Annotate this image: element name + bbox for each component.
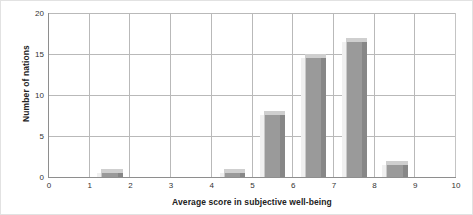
bar-face bbox=[386, 165, 402, 177]
y-axis-tick-label: 10 bbox=[35, 91, 44, 100]
bar-top bbox=[346, 38, 367, 42]
x-axis-tick-label: 1 bbox=[87, 181, 91, 190]
gridline-horizontal bbox=[49, 54, 456, 55]
gridline-vertical bbox=[333, 13, 334, 177]
bar-top bbox=[224, 169, 245, 173]
histogram-bar bbox=[301, 54, 326, 177]
bar-top bbox=[101, 169, 122, 173]
chart-figure: Number of nations Average score in subje… bbox=[0, 0, 473, 215]
histogram-bar bbox=[260, 111, 285, 177]
bar-face bbox=[305, 58, 321, 177]
gridline-vertical bbox=[292, 13, 293, 177]
y-axis-tick-label: 0 bbox=[40, 173, 44, 182]
gridline-vertical bbox=[129, 13, 130, 177]
gridline-horizontal bbox=[49, 13, 456, 14]
histogram-bar bbox=[382, 161, 407, 177]
x-axis-tick-label: 2 bbox=[128, 181, 132, 190]
histogram-bar bbox=[97, 169, 122, 177]
histogram-bar bbox=[342, 38, 367, 177]
y-axis-tick-label: 5 bbox=[40, 132, 44, 141]
bar-side bbox=[403, 165, 408, 177]
x-axis-tick-label: 3 bbox=[169, 181, 173, 190]
bar-top bbox=[305, 54, 326, 58]
bar-face bbox=[264, 115, 280, 177]
bar-face bbox=[224, 173, 240, 177]
bar-side bbox=[240, 173, 245, 177]
x-axis-tick-label: 10 bbox=[452, 181, 461, 190]
x-axis-tick-label: 4 bbox=[210, 181, 214, 190]
x-axis-tick-label: 7 bbox=[332, 181, 336, 190]
gridline-vertical bbox=[89, 13, 90, 177]
bar-side bbox=[321, 58, 326, 177]
histogram-bar bbox=[220, 169, 245, 177]
bar-top bbox=[264, 111, 285, 115]
gridline-horizontal bbox=[49, 95, 456, 96]
gridline-horizontal bbox=[49, 136, 456, 137]
x-axis-title: Average score in subjective well-being bbox=[48, 197, 456, 207]
bar-side bbox=[118, 173, 123, 177]
gridline-vertical bbox=[455, 13, 456, 177]
gridline-vertical bbox=[252, 13, 253, 177]
x-axis-tick-label: 9 bbox=[413, 181, 417, 190]
bar-side bbox=[280, 115, 285, 177]
x-axis-tick-label: 8 bbox=[372, 181, 376, 190]
y-axis-tick-label: 15 bbox=[35, 50, 44, 59]
bar-side bbox=[362, 42, 367, 177]
x-axis-tick-label: 0 bbox=[47, 181, 51, 190]
bar-face bbox=[101, 173, 117, 177]
y-axis-tick-label: 20 bbox=[35, 9, 44, 18]
gridline-vertical bbox=[374, 13, 375, 177]
plot-area: 05101520012345678910 bbox=[48, 13, 456, 178]
bar-face bbox=[346, 42, 362, 177]
bar-top bbox=[386, 161, 407, 165]
x-axis-tick-label: 5 bbox=[250, 181, 254, 190]
gridline-vertical bbox=[414, 13, 415, 177]
y-axis-title: Number of nations bbox=[17, 0, 35, 191]
x-axis-tick-label: 6 bbox=[291, 181, 295, 190]
gridline-vertical bbox=[170, 13, 171, 177]
gridline-vertical bbox=[211, 13, 212, 177]
